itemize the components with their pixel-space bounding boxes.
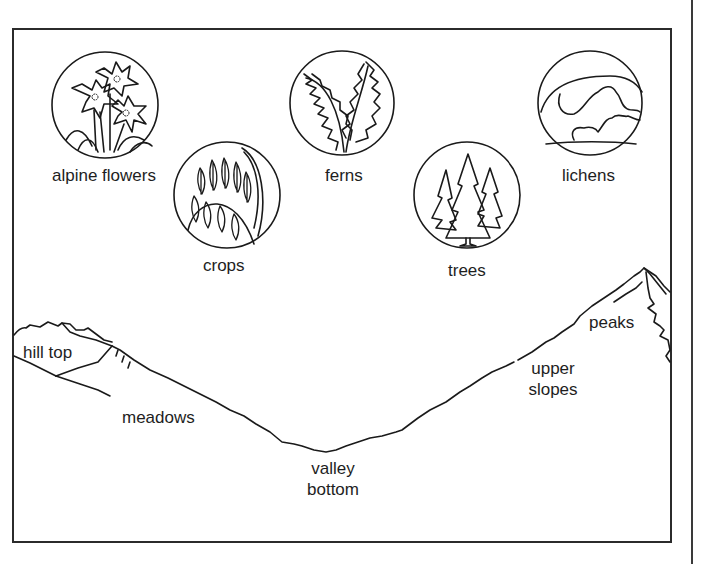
- zone-label-meadows: meadows: [122, 408, 195, 428]
- organism-label-trees: trees: [448, 261, 486, 281]
- organism-label-ferns: ferns: [325, 166, 363, 186]
- ferns-icon: [290, 51, 394, 155]
- lichens-icon: [538, 51, 642, 155]
- zone-label-upper-slopes-line2: slopes: [524, 379, 582, 400]
- zone-label-upper-slopes: upper slopes: [524, 358, 582, 400]
- zone-label-valley-bottom-line2: bottom: [302, 479, 364, 500]
- crops-icon: [174, 142, 280, 248]
- zone-label-hill-top: hill top: [23, 343, 72, 363]
- organism-label-crops: crops: [203, 256, 245, 276]
- alpine-flowers-icon: [52, 52, 158, 158]
- zone-label-valley-bottom-line1: valley: [302, 458, 364, 479]
- zone-label-upper-slopes-line1: upper: [524, 358, 582, 379]
- trees-icon: [414, 142, 520, 248]
- organism-label-alpine-flowers: alpine flowers: [52, 166, 156, 186]
- zone-label-peaks: peaks: [589, 313, 634, 333]
- zone-label-valley-bottom: valley bottom: [302, 458, 364, 500]
- organism-label-lichens: lichens: [562, 166, 615, 186]
